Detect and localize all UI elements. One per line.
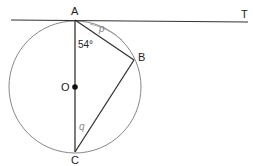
label-B: B [138, 51, 145, 63]
tangent-line-AT [11, 20, 248, 22]
angle-label-54: 54° [78, 39, 93, 50]
label-C: C [71, 154, 79, 166]
diagram-canvas: A T B O C 54° p q [0, 0, 253, 166]
label-T: T [241, 8, 248, 20]
center-point-O [72, 84, 78, 90]
label-O: O [61, 81, 70, 93]
angle-arc-p [90, 24, 122, 40]
angle-label-q: q [79, 121, 85, 132]
segment-BC [75, 60, 134, 152]
label-A: A [71, 5, 79, 17]
angle-label-p: p [98, 23, 105, 34]
